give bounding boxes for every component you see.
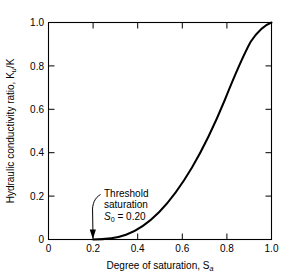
x-tick-label: 0.6 [175,243,189,254]
plot-frame [49,23,272,240]
top-axis-ticks [49,23,272,29]
x-axis-ticks [49,234,272,240]
figure-container: 0 0.2 0.4 0.6 0.8 1.0 0 0.2 0.4 0.6 0.8 … [0,0,291,279]
x-tick-labels: 0 0.2 0.4 0.6 0.8 1.0 [46,243,279,254]
y-tick-labels: 0 0.2 0.4 0.6 0.8 1.0 [30,17,44,245]
right-axis-ticks [266,23,272,240]
y-axis-ticks [49,23,55,240]
annotation-line-1: Threshold [104,188,148,199]
x-axis-label: Degree of saturation, Sa [107,260,214,273]
y-tick-label: 0.8 [30,61,44,72]
y-tick-label: 0.4 [30,147,44,158]
annotation-line-3: S0 = 0.20 [104,211,146,224]
y-tick-label: 0 [38,234,44,245]
x-tick-label: 0.8 [220,243,234,254]
x-tick-label: 0 [46,243,52,254]
x-tick-label: 1.0 [265,243,279,254]
y-tick-label: 0.2 [30,191,44,202]
y-tick-label: 1.0 [30,17,44,28]
annotation-line-2: saturation [104,199,148,210]
x-tick-label: 0.4 [131,243,145,254]
threshold-annotation-leader [90,195,101,240]
y-tick-label: 0.6 [30,104,44,115]
y-axis-label: Hydraulic conductivity ratio, Ku/K [5,58,18,203]
threshold-annotation-text: Threshold saturation S0 = 0.20 [104,188,148,224]
hydraulic-conductivity-chart: 0 0.2 0.4 0.6 0.8 1.0 0 0.2 0.4 0.6 0.8 … [0,0,291,279]
x-tick-label: 0.2 [86,243,100,254]
